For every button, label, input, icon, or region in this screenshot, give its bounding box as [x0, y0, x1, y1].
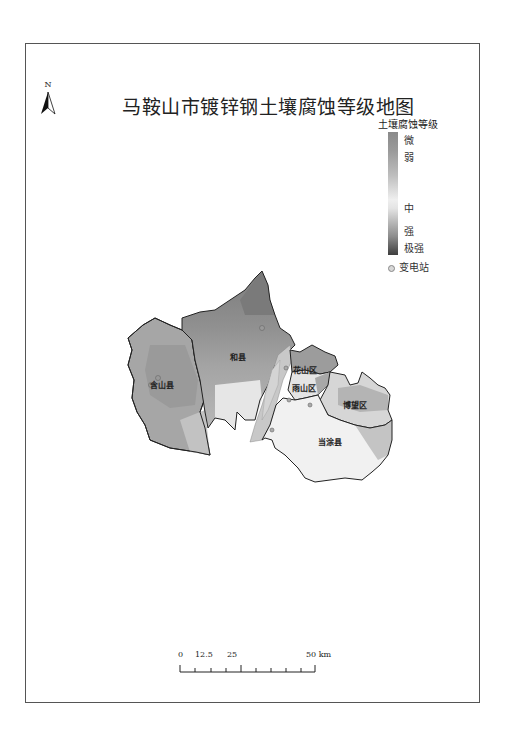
substation-dot-icon[interactable] — [284, 366, 288, 370]
region-label-hanshan: 含山县 — [150, 380, 174, 390]
region-label-dangtu: 当涂县 — [318, 437, 342, 447]
region-label-hexian: 和县 — [230, 352, 246, 362]
substation-dot-icon[interactable] — [287, 398, 291, 402]
substation-dot-icon[interactable] — [270, 428, 274, 432]
scale-ruler — [175, 650, 335, 675]
map-canvas: 含山县 和县 花山区 雨山区 博望区 当涂县 — [0, 0, 510, 744]
region-label-huashan: 花山区 — [293, 365, 317, 375]
region-label-bowang: 博望区 — [343, 400, 367, 410]
substation-dot-icon[interactable] — [308, 403, 312, 407]
region-label-yushan: 雨山区 — [292, 383, 316, 393]
substation-dot-icon[interactable] — [260, 326, 265, 331]
scale-bar: 0 12.5 25 50 km — [175, 650, 335, 675]
